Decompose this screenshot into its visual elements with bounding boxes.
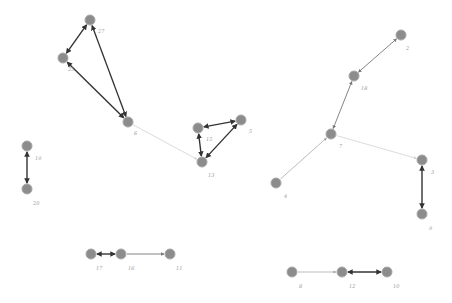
node-11[interactable]: 11 xyxy=(165,249,182,271)
node-5[interactable]: 5 xyxy=(236,115,252,134)
node-25[interactable]: 25 xyxy=(58,53,74,72)
node-label: 5 xyxy=(249,128,252,134)
node-3[interactable]: 3 xyxy=(417,155,434,175)
node-circle[interactable] xyxy=(116,249,126,259)
edge-4-7 xyxy=(280,138,326,179)
node-label: 25 xyxy=(67,66,74,72)
node-layer: 27256155131920218739417161181210 xyxy=(22,15,434,289)
node-label: 18 xyxy=(361,85,367,91)
node-circle[interactable] xyxy=(271,178,281,188)
node-20[interactable]: 20 xyxy=(22,184,40,206)
node-label: 15 xyxy=(206,136,212,142)
node-circle[interactable] xyxy=(193,123,203,133)
edge-6-13 xyxy=(133,125,196,159)
node-9[interactable]: 9 xyxy=(417,209,433,231)
node-27[interactable]: 27 xyxy=(85,15,105,34)
node-label: 2 xyxy=(405,45,409,51)
node-label: 16 xyxy=(128,265,135,271)
edge-18-7 xyxy=(333,82,352,129)
node-label: 27 xyxy=(97,28,105,34)
node-circle[interactable] xyxy=(86,249,96,259)
node-label: 12 xyxy=(349,283,355,289)
edge-2-18 xyxy=(359,39,397,72)
node-label: 17 xyxy=(96,265,103,271)
node-label: 8 xyxy=(299,283,302,289)
node-circle[interactable] xyxy=(197,157,207,167)
node-circle[interactable] xyxy=(22,141,32,151)
edge-25-6 xyxy=(67,62,123,118)
node-circle[interactable] xyxy=(165,249,175,259)
node-label: 9 xyxy=(429,225,433,231)
node-label: 10 xyxy=(393,283,400,289)
node-circle[interactable] xyxy=(123,117,133,127)
edge-layer xyxy=(27,25,422,272)
node-18[interactable]: 18 xyxy=(349,71,367,91)
node-circle[interactable] xyxy=(396,30,406,40)
node-label: 6 xyxy=(134,130,138,136)
node-label: 11 xyxy=(176,265,182,271)
node-circle[interactable] xyxy=(349,71,359,81)
node-circle[interactable] xyxy=(417,209,427,219)
node-8[interactable]: 8 xyxy=(287,267,302,289)
node-circle[interactable] xyxy=(236,115,246,125)
node-2[interactable]: 2 xyxy=(396,30,409,51)
node-label: 3 xyxy=(431,169,434,175)
node-17[interactable]: 17 xyxy=(86,249,103,271)
node-16[interactable]: 16 xyxy=(116,249,135,271)
node-7[interactable]: 7 xyxy=(326,129,343,149)
node-10[interactable]: 10 xyxy=(382,267,400,289)
node-circle[interactable] xyxy=(85,15,95,25)
edge-15-13 xyxy=(199,134,202,156)
node-circle[interactable] xyxy=(22,184,32,194)
edge-27-25 xyxy=(66,25,86,53)
node-4[interactable]: 4 xyxy=(271,178,287,199)
node-label: 13 xyxy=(208,172,214,178)
node-label: 19 xyxy=(35,155,42,161)
node-19[interactable]: 19 xyxy=(22,141,42,161)
node-circle[interactable] xyxy=(58,53,68,63)
node-label: 7 xyxy=(339,143,343,149)
node-12[interactable]: 12 xyxy=(337,267,355,289)
node-label: 20 xyxy=(32,200,40,206)
node-circle[interactable] xyxy=(337,267,347,277)
edge-7-3 xyxy=(337,136,416,159)
node-circle[interactable] xyxy=(287,267,297,277)
node-circle[interactable] xyxy=(382,267,392,277)
node-circle[interactable] xyxy=(326,129,336,139)
edge-15-5 xyxy=(204,121,235,127)
node-13[interactable]: 13 xyxy=(197,157,214,178)
graph-canvas: 27256155131920218739417161181210 xyxy=(0,0,452,303)
node-label: 4 xyxy=(283,193,287,199)
node-circle[interactable] xyxy=(417,155,427,165)
